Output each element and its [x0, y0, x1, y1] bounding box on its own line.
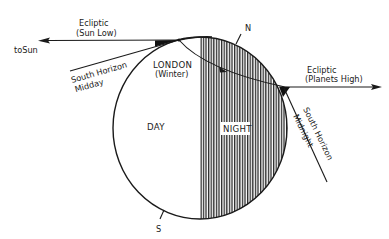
night-label: NIGHT [223, 124, 252, 134]
ecliptic-planets-label-2: (Planets High) [305, 74, 363, 84]
day-label: DAY [147, 122, 165, 132]
south-label: S [156, 224, 161, 234]
ecliptic-sun-label-2: (Sun Low) [76, 28, 117, 38]
south-tick [160, 210, 164, 219]
to-sun-label: toSun [14, 45, 38, 55]
north-tick [236, 34, 241, 44]
ecliptic-sun-label-1: Ecliptic [79, 18, 108, 28]
london-season-label: (Winter) [155, 69, 188, 79]
ecliptic-planets-arrow [285, 84, 382, 90]
north-label: N [245, 23, 251, 33]
diagram-canvas: Ecliptic (Sun Low) toSun South Horizon M… [0, 0, 389, 239]
